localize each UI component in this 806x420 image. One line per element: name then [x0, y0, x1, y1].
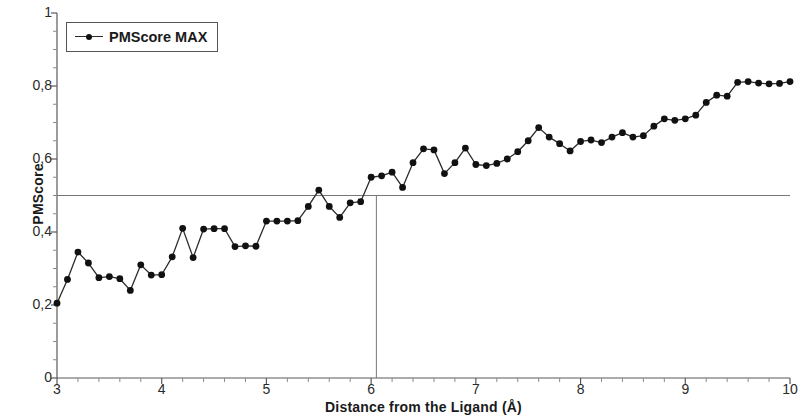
data-point	[190, 254, 197, 261]
axis-tick-marks	[51, 13, 790, 384]
data-point	[619, 129, 626, 136]
data-point	[253, 243, 260, 250]
x-axis-tick-label: 3	[37, 382, 77, 396]
data-point	[452, 159, 459, 166]
data-point	[389, 169, 396, 176]
data-point	[441, 170, 448, 177]
data-point	[95, 274, 102, 281]
data-point	[661, 115, 668, 122]
data-point	[567, 148, 574, 155]
data-point	[556, 140, 563, 147]
data-point	[703, 99, 710, 106]
data-point	[535, 124, 542, 131]
data-point	[158, 271, 165, 278]
data-point	[137, 261, 144, 268]
x-axis-title: Distance from the Ligand (Å)	[57, 399, 790, 415]
data-point	[399, 184, 406, 191]
data-point	[630, 134, 637, 141]
chart-figure: PMScore Distance from the Ligand (Å) 00,…	[0, 0, 806, 420]
data-point	[169, 253, 176, 260]
data-point	[221, 225, 228, 232]
x-axis-tick-label: 9	[665, 382, 705, 396]
data-point	[315, 187, 322, 194]
data-point	[787, 78, 794, 85]
data-point	[504, 156, 511, 163]
data-point	[148, 272, 155, 279]
data-point	[420, 145, 427, 152]
data-point	[274, 218, 281, 225]
data-point	[378, 172, 385, 179]
data-point	[284, 218, 291, 225]
data-point	[336, 214, 343, 221]
x-axis-tick-label: 7	[456, 382, 496, 396]
x-axis-tick-label: 10	[770, 382, 806, 396]
data-point	[609, 134, 616, 141]
data-point	[211, 225, 218, 232]
data-point	[54, 300, 61, 307]
data-point	[326, 203, 333, 210]
data-point	[493, 160, 500, 167]
legend-label: PMScore MAX	[109, 29, 207, 45]
data-point	[347, 199, 354, 206]
data-point	[755, 80, 762, 87]
data-point	[127, 287, 134, 294]
data-point	[263, 218, 270, 225]
data-point	[650, 123, 657, 130]
y-axis-tick-label: 0,8	[12, 78, 52, 92]
data-point	[368, 174, 375, 181]
legend-line-marker-icon	[75, 32, 103, 42]
data-point	[85, 260, 92, 267]
data-point	[232, 243, 239, 250]
x-axis-tick-label: 8	[561, 382, 601, 396]
x-axis-tick-label: 4	[142, 382, 182, 396]
data-point	[588, 137, 595, 144]
data-point	[745, 78, 752, 85]
data-point	[640, 132, 647, 139]
data-point	[514, 148, 521, 155]
series-line-pmscore-max	[57, 82, 790, 304]
data-point	[200, 226, 207, 233]
data-point	[357, 198, 364, 205]
y-axis-tick-label: 0,6	[12, 151, 52, 165]
plot-area	[0, 0, 806, 420]
y-axis-tick-label: 0,2	[12, 297, 52, 311]
data-point	[671, 117, 678, 124]
y-axis-tick-label: 0,4	[12, 224, 52, 238]
data-point	[116, 275, 123, 282]
data-point	[483, 162, 490, 169]
data-point	[462, 145, 469, 152]
data-point	[75, 249, 82, 256]
data-point	[724, 93, 731, 100]
legend-entry-pmscore-max: PMScore MAX	[67, 23, 217, 51]
data-point	[546, 134, 553, 141]
data-point	[776, 80, 783, 87]
series-points-pmscore-max	[54, 78, 794, 306]
data-point	[179, 225, 186, 232]
data-point	[766, 80, 773, 87]
data-point	[734, 79, 741, 86]
data-point	[525, 137, 532, 144]
data-point	[472, 161, 479, 168]
data-point	[598, 139, 605, 146]
data-point	[577, 138, 584, 145]
data-point	[305, 203, 312, 210]
data-point	[713, 92, 720, 99]
data-point	[242, 242, 249, 249]
data-point	[431, 146, 438, 153]
reference-lines	[57, 196, 790, 379]
x-axis-tick-label: 5	[246, 382, 286, 396]
data-point	[410, 159, 417, 166]
x-axis-tick-label: 6	[351, 382, 391, 396]
data-point	[294, 217, 301, 224]
data-point	[106, 273, 113, 280]
chart-legend: PMScore MAX	[66, 22, 218, 52]
data-point	[682, 115, 689, 122]
y-axis-tick-label: 1	[12, 5, 52, 19]
data-point	[64, 276, 71, 283]
data-point	[692, 112, 699, 119]
